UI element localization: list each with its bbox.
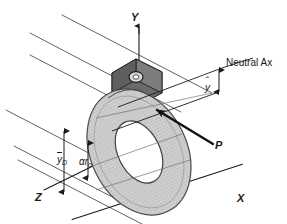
load-label-p: P [215, 140, 222, 151]
y-bar-D-base: y [57, 154, 62, 165]
technical-diagram-canvas [0, 0, 287, 224]
axis-label-z: Z [35, 192, 42, 203]
axis-label-y: Y [131, 12, 138, 23]
neutral-axis-label: Neutral Ax [226, 58, 272, 68]
alpha-r-o-label: αro [79, 157, 92, 168]
alpha-r-o-base: αr [79, 156, 88, 167]
annular-disk [67, 72, 211, 224]
y-bar-D-label: y D [57, 155, 67, 166]
y-bar-D-subscript: D [62, 159, 67, 166]
axis-label-x: X [237, 193, 244, 204]
pin-hole-icon [129, 72, 143, 83]
y-hat-accent: ˆ [206, 77, 209, 87]
y-bar-overline [57, 152, 62, 153]
y-hat-label: ˆ y [205, 83, 210, 93]
alpha-r-o-subscript: o [88, 161, 92, 168]
